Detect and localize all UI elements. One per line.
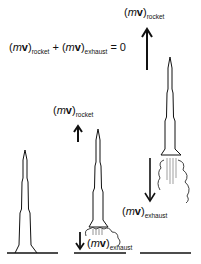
- eq-velocity-symbol: v: [22, 41, 28, 53]
- rocket-in-flight: [161, 57, 181, 155]
- eq-plus: +: [52, 41, 58, 53]
- rocket-liftoff: [89, 129, 108, 227]
- mass-symbol: m: [128, 6, 137, 18]
- exhaust-plume-right-edge: [178, 160, 189, 203]
- velocity-symbol: v: [135, 205, 141, 217]
- rocket-at-rest: [15, 150, 37, 253]
- eq-equals-zero: = 0: [110, 41, 126, 53]
- eq-mass-symbol-2: m: [66, 41, 75, 53]
- arrow-up-rocket-large: [142, 29, 152, 70]
- eq-velocity-symbol-2: v: [75, 41, 81, 53]
- label-exhaust-momentum-liftoff: (mv)exhaust: [87, 237, 132, 254]
- mass-symbol: m: [57, 104, 66, 116]
- mass-symbol: m: [91, 237, 100, 249]
- eq-mass-symbol: m: [13, 41, 22, 53]
- label-rocket-momentum-inflight: (mv)rocket: [124, 6, 164, 23]
- arrow-up-rocket-small: [74, 126, 82, 142]
- momentum-equation: (mv)rocket + (mv)exhaust = 0: [9, 41, 126, 58]
- subscript-exhaust: exhaust: [145, 212, 168, 219]
- arrow-down-exhaust-small: [76, 232, 84, 249]
- exhaust-streaks-liftoff: [93, 229, 102, 235]
- exhaust-plume-left-edge: [158, 160, 164, 190]
- exhaust-streaks-in-flight: [167, 158, 176, 184]
- eq-subscript-exhaust: exhaust: [85, 48, 108, 55]
- label-exhaust-momentum-inflight: (mv)exhaust: [122, 205, 167, 222]
- mass-symbol: m: [126, 205, 135, 217]
- subscript-exhaust: exhaust: [110, 244, 133, 251]
- label-rocket-momentum-liftoff: (mv)rocket: [53, 104, 93, 121]
- velocity-symbol: v: [137, 6, 143, 18]
- velocity-symbol: v: [100, 237, 106, 249]
- velocity-symbol: v: [66, 104, 72, 116]
- rocket-diagram: [0, 0, 201, 264]
- arrow-down-exhaust-large: [145, 158, 155, 201]
- subscript-rocket: rocket: [147, 13, 165, 20]
- eq-subscript-rocket: rocket: [32, 48, 50, 55]
- subscript-rocket: rocket: [76, 111, 94, 118]
